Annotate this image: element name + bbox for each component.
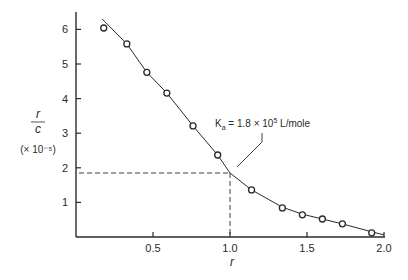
data-point [279,205,285,211]
data-point [319,216,325,222]
data-point [369,230,375,236]
y-axis-unit-label: (× 10⁻⁵) [20,144,56,155]
ka-annotation: Ka = 1.8 × 105 L/mole [215,117,311,131]
y-axis-label-denominator: c [35,122,41,136]
x-tick-label: 2.0 [376,242,391,254]
y-axis-label-numerator: r [36,107,41,121]
data-point [249,187,255,193]
data-point [124,41,130,47]
x-tick-label: 1.0 [222,242,237,254]
x-axis-label: r [230,255,235,269]
data-point [215,152,221,158]
ka-annotation-body: = 1.8 × 10 [226,118,274,129]
y-tick-label: 1 [62,196,68,208]
data-point [299,212,305,218]
data-point [164,90,170,96]
data-point [339,221,345,227]
x-tick-label: 1.5 [299,242,314,254]
data-point [190,123,196,129]
data-point [144,69,150,75]
binding-plot: 1234560.51.01.52.0 r c (× 10⁻⁵) r Ka = 1… [0,0,408,280]
ka-annotation-units: L/mole [277,118,310,129]
y-tick-label: 3 [62,127,68,139]
data-point [101,25,107,31]
y-tick-label: 2 [62,162,68,174]
annotation-leader-line [237,133,262,167]
y-tick-label: 5 [62,58,68,70]
axes: 1234560.51.01.52.0 [62,12,392,254]
y-tick-label: 4 [62,93,68,105]
y-tick-label: 6 [62,23,68,35]
x-tick-label: 0.5 [145,242,160,254]
